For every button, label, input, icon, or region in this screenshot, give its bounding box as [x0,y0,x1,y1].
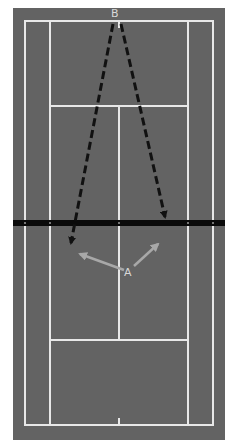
tennis-court-diagram: B A [0,0,234,445]
player-b-label: B [111,7,119,20]
player-a-label: A [124,266,132,279]
